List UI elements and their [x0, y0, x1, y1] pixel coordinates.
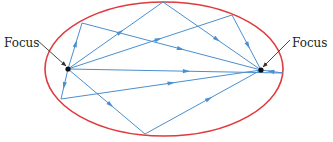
focus-point-left — [65, 66, 70, 71]
ray-arrow-icon — [154, 38, 162, 42]
ray-arrow-icon — [116, 30, 123, 36]
ray-arrow-icon — [213, 36, 220, 42]
ray-segment — [68, 69, 145, 134]
ray-arrow-icon — [63, 82, 67, 90]
ray-segment — [163, 2, 261, 70]
focus-point-right — [258, 67, 263, 72]
focus-left-group: Focus — [4, 36, 71, 72]
ray-arrow-icon — [177, 46, 185, 50]
ray-arrow-icon — [205, 97, 213, 102]
ray-arrow-icon — [183, 69, 190, 73]
ray-segment — [68, 2, 163, 69]
ray-arrow-icon — [73, 40, 77, 48]
ray-segment — [61, 70, 261, 99]
ray-segment — [145, 70, 261, 134]
ray-segment — [82, 23, 261, 70]
ray-arrow-icon — [167, 82, 175, 86]
focus-right-group: Focus — [258, 36, 327, 73]
ray-segment — [68, 15, 232, 69]
ray-arrow-icon — [267, 70, 275, 74]
ellipse-reflection-diagram: Focus Focus — [0, 0, 333, 142]
pointer-arrow-right — [263, 40, 290, 67]
pointer-arrow-left — [37, 40, 66, 66]
focus-label-right: Focus — [292, 36, 328, 50]
focus-label-left: Focus — [4, 36, 40, 50]
ray-arrow-icon — [245, 41, 250, 49]
